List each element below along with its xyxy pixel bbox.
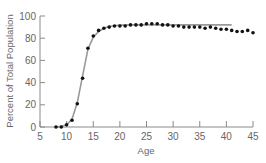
data-point (145, 22, 149, 26)
data-point (54, 125, 58, 129)
x-tick-label: 30 (168, 131, 180, 142)
data-point (182, 25, 186, 29)
data-point (235, 30, 239, 34)
data-point (97, 29, 101, 33)
y-tick-label: 40 (25, 77, 37, 88)
data-point (86, 46, 90, 50)
data-point (187, 25, 191, 29)
data-point (230, 29, 234, 33)
x-tick-label: 10 (61, 131, 73, 142)
data-point (129, 23, 133, 27)
data-point (65, 123, 69, 127)
chart: 02040608010051015202530354045 Age Percen… (0, 0, 266, 163)
x-tick-label: 5 (37, 131, 43, 142)
data-point (60, 125, 64, 129)
y-axis-title: Percent of Total Population (4, 14, 15, 127)
data-point (203, 26, 207, 30)
data-point (102, 26, 106, 30)
data-point (161, 23, 165, 27)
data-point (166, 23, 170, 27)
data-points (54, 22, 255, 129)
data-point (150, 22, 154, 26)
y-tick-label: 80 (25, 33, 37, 44)
data-point (92, 34, 96, 38)
data-point (198, 25, 202, 29)
x-tick-label: 35 (194, 131, 206, 142)
data-point (113, 24, 117, 28)
data-point (209, 25, 213, 29)
data-point (241, 30, 245, 34)
y-tick-label: 0 (30, 122, 36, 133)
data-point (70, 119, 74, 123)
data-point (134, 23, 138, 27)
x-tick-label: 15 (88, 131, 100, 142)
data-point (246, 29, 250, 33)
data-point (107, 25, 111, 29)
fitted-curve (56, 25, 232, 127)
data-point (76, 102, 80, 106)
data-point (225, 28, 229, 32)
x-axis-title: Age (138, 145, 155, 156)
x-tick-label: 25 (141, 131, 153, 142)
data-point (139, 23, 143, 27)
data-point (193, 25, 197, 29)
data-point (251, 31, 255, 35)
x-tick-label: 40 (221, 131, 233, 142)
data-point (118, 24, 122, 28)
data-point (155, 22, 159, 26)
y-tick-label: 20 (25, 99, 37, 110)
data-point (171, 24, 175, 28)
x-tick-label: 20 (114, 131, 126, 142)
data-point (177, 24, 181, 28)
data-point (219, 28, 223, 32)
data-point (123, 24, 127, 28)
data-point (214, 26, 218, 30)
y-tick-label: 60 (25, 55, 37, 66)
data-point (81, 76, 85, 80)
axes: 02040608010051015202530354045 (19, 11, 259, 143)
x-tick-label: 45 (247, 131, 259, 142)
y-tick-label: 100 (19, 11, 36, 22)
